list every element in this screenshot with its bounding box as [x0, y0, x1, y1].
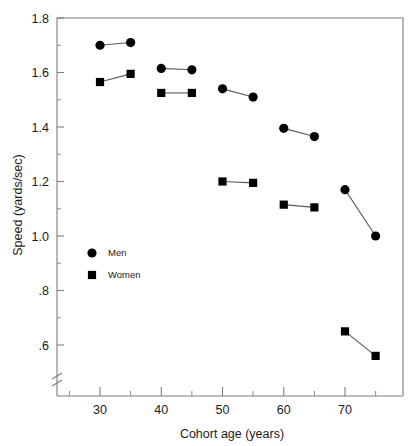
y-tick-label: 1.6 [32, 66, 49, 80]
y-axis-title: Speed (yards/sec) [11, 154, 25, 255]
series-connector-women [284, 205, 315, 208]
y-tick-label: .6 [39, 339, 49, 353]
data-point-women [341, 327, 349, 335]
data-point-men [95, 41, 104, 50]
data-point-women [372, 352, 380, 360]
series-connector-men [223, 89, 254, 97]
data-point-women [96, 78, 104, 86]
data-point-men [371, 231, 380, 240]
data-point-men [340, 185, 349, 194]
x-tick-label: 50 [216, 403, 230, 417]
x-axis-title: Cohort age (years) [180, 427, 284, 441]
data-point-men [187, 65, 196, 74]
data-series-layer [95, 38, 380, 360]
y-tick-label: 1.2 [32, 175, 49, 189]
y-tick-label: .8 [39, 284, 49, 298]
plot-frame [57, 18, 403, 396]
y-tick-label: 1.8 [32, 12, 49, 26]
data-point-men [310, 132, 319, 141]
legend-marker-women [88, 271, 96, 279]
data-point-women [310, 203, 318, 211]
x-axis: 3040506070 [69, 387, 375, 417]
x-tick-label: 40 [154, 403, 168, 417]
series-connector-men [284, 128, 315, 136]
series-connector-women [100, 74, 131, 82]
speed-vs-cohort-age-chart: 1.81.61.41.21.0.8.6 3040506070 MenWomen … [0, 0, 420, 446]
y-tick-label: 1.0 [32, 230, 49, 244]
data-point-women [157, 89, 165, 97]
data-point-women [249, 179, 257, 187]
chart-legend: MenWomen [87, 247, 140, 280]
series-connector-men [345, 190, 376, 236]
data-point-men [157, 64, 166, 73]
series-connector-women [223, 182, 254, 183]
chart-canvas: 1.81.61.41.21.0.8.6 3040506070 MenWomen … [0, 0, 420, 446]
series-connector-men [100, 43, 131, 46]
data-point-women [127, 70, 135, 78]
legend-marker-men [87, 248, 96, 257]
x-tick-label: 30 [93, 403, 107, 417]
data-point-men [249, 92, 258, 101]
y-axis: 1.81.61.41.21.0.8.6 [32, 12, 64, 353]
data-point-women [218, 177, 226, 185]
frame-border [57, 18, 403, 396]
data-point-women [280, 201, 288, 209]
legend-label-men: Men [108, 247, 126, 258]
series-connector-women [345, 331, 376, 356]
x-tick-label: 60 [277, 403, 291, 417]
x-tick-label: 70 [338, 403, 352, 417]
data-point-men [218, 84, 227, 93]
data-point-men [279, 124, 288, 133]
legend-label-women: Women [108, 269, 141, 280]
y-tick-label: 1.4 [32, 121, 49, 135]
data-point-women [188, 89, 196, 97]
data-point-men [126, 38, 135, 47]
